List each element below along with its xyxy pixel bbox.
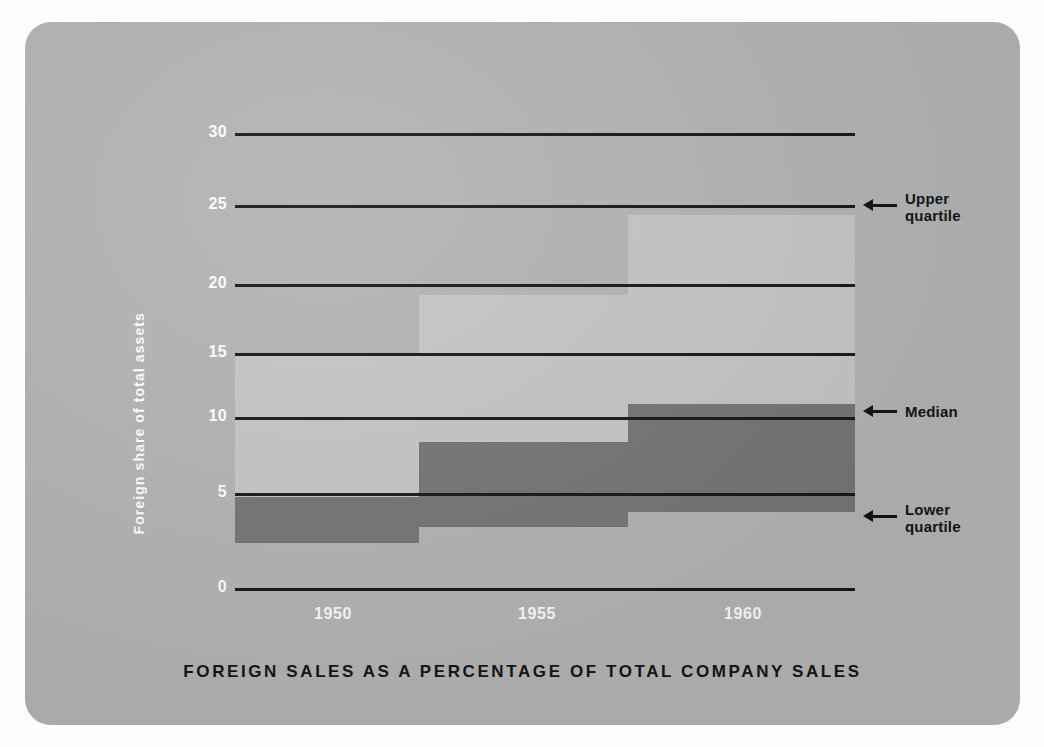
median-arrow-icon [863, 405, 897, 418]
ytick-10: 10 [193, 407, 227, 425]
upper-quartile-annotation: Upper quartile [905, 190, 961, 225]
ytick-25: 25 [193, 195, 227, 213]
gridline-25 [235, 205, 855, 208]
chart-title: FOREIGN SALES AS A PERCENTAGE OF TOTAL C… [25, 662, 1020, 682]
ytick-0: 0 [193, 578, 227, 596]
ytick-30: 30 [193, 123, 227, 141]
lower-quartile-band-period-2 [419, 442, 629, 527]
y-axis-label: Foreign share of total assets [131, 312, 147, 535]
median-annotation: Median [905, 403, 958, 420]
lower-quartile-band-period-1 [235, 497, 419, 543]
gridline-10 [235, 417, 855, 420]
gridline-20 [235, 284, 855, 287]
gridline-30 [235, 133, 855, 136]
gridline-15 [235, 353, 855, 356]
ytick-5: 5 [193, 483, 227, 501]
ytick-20: 20 [193, 274, 227, 292]
gridline-5 [235, 493, 855, 496]
upper-quartile-arrow-icon [863, 199, 897, 212]
plot-area: 30 25 20 15 10 5 0 1950 1955 1960 Foreig… [25, 22, 1020, 725]
screenshot-root: 30 25 20 15 10 5 0 1950 1955 1960 Foreig… [0, 0, 1044, 747]
upper-quartile-band-period-2 [419, 295, 629, 442]
chart-card: 30 25 20 15 10 5 0 1950 1955 1960 Foreig… [25, 22, 1020, 725]
upper-quartile-band-period-1 [235, 354, 419, 497]
xtick-1955: 1955 [502, 605, 572, 623]
xtick-1960: 1960 [708, 605, 778, 623]
xtick-1950: 1950 [298, 605, 368, 623]
ytick-15: 15 [193, 343, 227, 361]
lower-quartile-annotation: Lower quartile [905, 501, 961, 536]
upper-quartile-band-period-3 [628, 215, 855, 405]
gridline-0 [235, 588, 855, 591]
lower-quartile-arrow-icon [863, 510, 897, 523]
